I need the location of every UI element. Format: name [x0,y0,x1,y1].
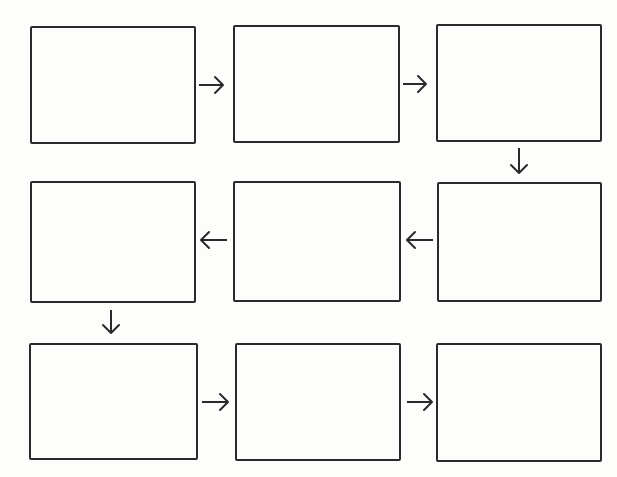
arrow-right-icon [403,76,426,92]
flow-box-4 [30,181,196,303]
arrow-down-icon [103,310,119,333]
flow-box-5 [233,181,401,302]
flow-box-7 [29,343,198,460]
arrow-right-icon [202,394,228,410]
flow-box-8 [235,343,401,461]
flow-box-1 [30,26,196,144]
arrow-left-icon [201,232,227,248]
arrow-left-icon [407,232,433,248]
flow-box-3 [436,24,602,142]
arrow-right-icon [199,77,223,93]
arrow-right-icon [407,394,432,410]
arrow-down-icon [511,148,527,173]
flow-box-6 [437,182,602,302]
flow-box-2 [233,25,400,143]
flow-box-9 [436,343,602,462]
